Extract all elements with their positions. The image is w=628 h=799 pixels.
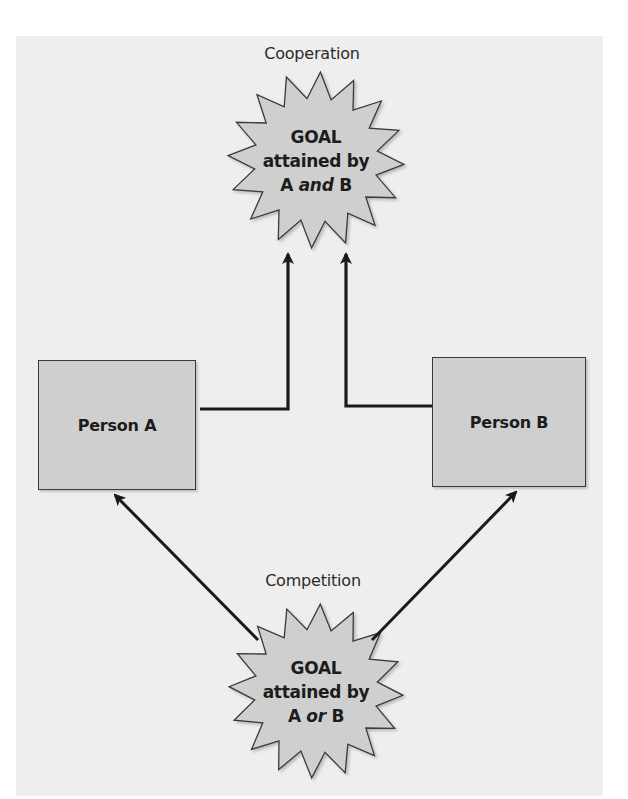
- goal-subtext: attained by: [263, 149, 370, 173]
- goal-heading: GOAL: [263, 656, 370, 680]
- person-a-label: Person A: [78, 416, 157, 435]
- goal-heading: GOAL: [263, 125, 370, 149]
- party-b: B: [326, 706, 344, 726]
- arrow-competition-goal-to-person-a: [115, 495, 258, 640]
- cooperation-title: Cooperation: [264, 44, 360, 63]
- party-a: A: [288, 706, 306, 726]
- party-b: B: [334, 175, 352, 195]
- arrow-person-b-to-cooperation-goal: [346, 254, 432, 406]
- person-b-box: Person B: [432, 357, 586, 487]
- competition-title: Competition: [265, 571, 361, 590]
- person-b-label: Person B: [470, 413, 549, 432]
- arrow-person-a-to-cooperation-goal: [200, 254, 288, 409]
- goal-parties: A or B: [263, 704, 370, 728]
- goal-subtext: attained by: [263, 680, 370, 704]
- competition-goal-text: GOAL attained by A or B: [263, 656, 370, 728]
- person-a-box: Person A: [38, 360, 196, 490]
- conjunction-and: and: [299, 175, 334, 195]
- cooperation-goal-text: GOAL attained by A and B: [263, 125, 370, 197]
- conjunction-or: or: [306, 706, 325, 726]
- arrow-competition-goal-to-person-b: [372, 492, 516, 640]
- goal-parties: A and B: [263, 173, 370, 197]
- party-a: A: [280, 175, 298, 195]
